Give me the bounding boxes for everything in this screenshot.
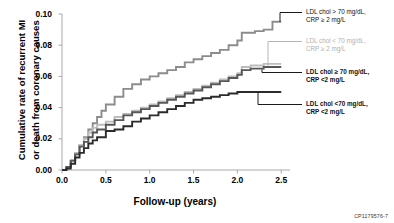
series-line-1 (62, 64, 281, 170)
x-tick-label: 0.5 (91, 176, 121, 185)
legend-label-line2: CRP ≥ 2 mg/L (306, 45, 366, 53)
legend-connector-0 (280, 13, 302, 22)
y-tick-label: 0.06 (22, 72, 52, 81)
y-tick-label: 0.02 (22, 134, 52, 143)
figure-code: CP1179576-7 (354, 213, 388, 219)
legend-entry-2: LDL chol ≥ 70 mg/dL,CRP <2 mg/L (306, 68, 369, 83)
y-axis-label: Cumulative rate of recurrent MI or death… (0, 0, 42, 180)
x-tick-label: 1.0 (135, 176, 165, 185)
x-tick-label: 0.0 (47, 176, 77, 185)
series-line-0 (62, 22, 281, 170)
legend-label-line2: CRP <2 mg/L (306, 108, 368, 116)
legend-label-line2: CRP ≥ 2 mg/L (306, 16, 366, 24)
legend-label-line1: LDL chol > 70 mg/dL, (306, 8, 366, 16)
x-tick-label: 1.5 (179, 176, 209, 185)
y-axis-label-line2: or death from coronary causes (30, 0, 46, 180)
chart-curves (62, 22, 281, 170)
legend-entry-3: LDL chol <70 mg/dL,CRP <2 mg/L (306, 100, 368, 115)
legend-entry-1: LDL chol < 70 mg/dL,CRP ≥ 2 mg/L (306, 37, 366, 52)
legend-connector-3 (258, 92, 302, 105)
y-tick-label: 0.00 (22, 166, 52, 175)
legend-label-line1: LDL chol < 70 mg/dL, (306, 37, 366, 45)
x-tick-label: 2.5 (266, 176, 296, 185)
legend-label-line2: CRP <2 mg/L (306, 76, 369, 84)
legend-label-line1: LDL chol ≥ 70 mg/dL, (306, 68, 369, 76)
series-line-3 (62, 92, 281, 170)
legend-entry-0: LDL chol > 70 mg/dL,CRP ≥ 2 mg/L (306, 8, 366, 23)
legend-connectors (258, 13, 302, 105)
legend-label-line1: LDL chol <70 mg/dL, (306, 100, 368, 108)
x-axis-label: Follow-up (years) (62, 196, 288, 207)
y-tick-label: 0.08 (22, 41, 52, 50)
chart-figure: Cumulative rate of recurrent MI or death… (0, 0, 394, 223)
x-tick-label: 2.0 (222, 176, 252, 185)
legend-connector-1 (268, 42, 302, 67)
y-tick-label: 0.10 (22, 10, 52, 19)
y-tick-label: 0.04 (22, 103, 52, 112)
series-line-2 (62, 67, 281, 170)
chart-axes (59, 14, 291, 174)
legend-connector-2 (262, 69, 302, 72)
